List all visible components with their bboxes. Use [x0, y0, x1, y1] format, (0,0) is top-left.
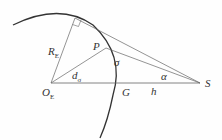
label-point-p: P — [93, 41, 100, 52]
label-center: OE — [42, 87, 54, 101]
label-sigma: σ — [114, 57, 119, 68]
label-satellite: S — [205, 78, 211, 89]
label-d-sigma: dσ — [72, 70, 81, 84]
label-radius: RE — [48, 46, 59, 60]
label-height: h — [151, 86, 157, 97]
label-alpha: α — [161, 71, 167, 82]
label-ground: G — [122, 87, 130, 98]
earth-limb-diagram: RE P σ dσ OE G h α S — [0, 0, 222, 140]
diagram-lines — [0, 0, 222, 140]
earth-surface-arc — [13, 14, 116, 139]
line-p-s — [106, 48, 200, 83]
